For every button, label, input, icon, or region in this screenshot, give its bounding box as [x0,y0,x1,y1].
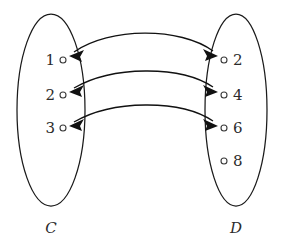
element-d-4-label: 4 [233,86,243,104]
element-d-2-marker [221,57,227,63]
element-c-2-marker [60,92,66,98]
set-c-name-label: C [45,219,57,237]
element-d-6: 6 [221,119,243,137]
element-d-2-label: 2 [233,51,243,69]
element-c-1-marker [60,57,66,63]
set-d-elements: 2 4 6 8 [221,51,243,170]
element-c-3-label: 3 [45,119,55,137]
arrowhead-right-2 [203,49,218,61]
element-d-8-marker [221,158,227,164]
element-c-3: 3 [45,119,66,137]
mapping-arc-2-to-4 [69,71,218,97]
set-c-elements: 1 2 3 [45,51,66,137]
element-c-1: 1 [45,51,66,69]
element-d-6-marker [221,125,227,131]
diagram-canvas: 1 2 3 2 4 6 [0,0,284,248]
mapping-arc-2-to-4-curve [74,71,213,88]
mapping-arc-3-to-6 [69,105,218,131]
element-c-2-label: 2 [45,86,55,104]
set-c-ellipse [17,14,85,206]
element-d-4: 4 [221,86,243,104]
element-c-2: 2 [45,86,66,104]
set-d-name-label: D [229,219,242,237]
mapping-arc-3-to-6-curve [74,105,213,122]
element-c-1-label: 1 [45,51,55,69]
element-d-8: 8 [221,152,243,170]
set-mapping-diagram: 1 2 3 2 4 6 [0,0,284,248]
element-c-3-marker [60,125,66,131]
element-d-4-marker [221,92,227,98]
element-d-2: 2 [221,51,243,69]
element-d-8-label: 8 [233,152,243,170]
mapping-arc-1-to-2 [69,33,218,62]
arrowhead-left-1 [69,50,84,62]
set-d-ellipse [205,14,267,206]
mapping-arc-1-to-2-curve [74,33,213,52]
element-d-6-label: 6 [233,119,243,137]
